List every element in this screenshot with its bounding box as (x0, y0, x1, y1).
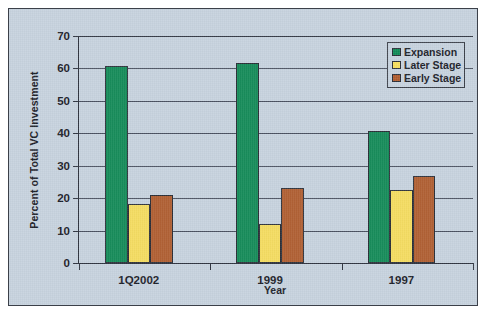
gridline (79, 166, 473, 167)
y-axis-tick (73, 101, 79, 102)
y-axis-tick (73, 166, 79, 167)
y-axis-tick-label: 50 (57, 95, 70, 107)
bar-expansion-1Q2002 (105, 66, 128, 263)
legend-item-label: Later Stage (404, 60, 461, 71)
legend-swatch-icon (392, 74, 401, 82)
x-axis-tick (210, 263, 211, 270)
y-axis-tick (73, 68, 79, 69)
gridline (79, 133, 473, 134)
y-axis-tick-label: 60 (57, 62, 70, 74)
y-axis-title: Percent of Total VC Investment (25, 36, 43, 263)
bar-expansion-1999 (236, 63, 259, 263)
y-axis-tick-label: 40 (57, 127, 70, 139)
y-axis-tick (73, 133, 79, 134)
legend-item-expansion[interactable]: Expansion (392, 46, 460, 58)
y-axis-tick-label: 10 (57, 225, 70, 237)
y-axis-tick-label: 30 (57, 160, 70, 172)
y-axis-tick-label: 70 (57, 30, 70, 42)
bar-later-stage-1997 (390, 190, 413, 263)
bar-early-stage-1999 (281, 188, 304, 263)
bar-later-stage-1Q2002 (128, 204, 151, 263)
y-axis-tick-label: 0 (64, 257, 70, 269)
legend-item-label: Expansion (404, 47, 457, 58)
bar-expansion-1997 (368, 131, 391, 263)
bar-early-stage-1997 (413, 176, 436, 263)
x-axis-tick (342, 263, 343, 270)
y-axis-tick-label: 20 (57, 192, 70, 204)
legend-swatch-icon (392, 48, 401, 56)
chart-legend: ExpansionLater StageEarly Stage (387, 42, 465, 88)
y-axis-tick (73, 198, 79, 199)
bar-later-stage-1999 (259, 224, 282, 263)
gridline (79, 36, 473, 37)
legend-item-later-stage[interactable]: Later Stage (392, 59, 460, 71)
legend-item-early-stage[interactable]: Early Stage (392, 72, 460, 84)
y-axis-tick (73, 36, 79, 37)
legend-item-label: Early Stage (404, 73, 461, 84)
y-axis-tick (73, 231, 79, 232)
gridline (79, 101, 473, 102)
x-axis-title: Year (78, 284, 472, 296)
chart-figure: Percent of Total VC Investment 010203040… (0, 0, 487, 316)
y-axis-title-label: Percent of Total VC Investment (28, 71, 40, 228)
bar-early-stage-1Q2002 (150, 195, 173, 263)
chart-panel: Percent of Total VC Investment 010203040… (8, 8, 478, 306)
x-axis-tick (79, 263, 80, 270)
legend-swatch-icon (392, 61, 401, 69)
x-axis-tick (473, 263, 474, 270)
